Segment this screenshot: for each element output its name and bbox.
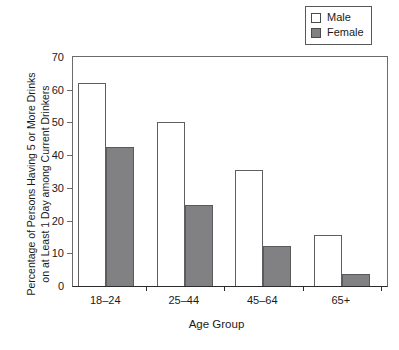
y-axis-tick: [67, 221, 73, 222]
x-axis-tick: [303, 286, 304, 291]
x-axis-tick: [224, 286, 225, 291]
y-axis-tick-label: 40: [52, 150, 64, 161]
x-axis-tick: [381, 286, 382, 291]
plot-area: 010203040506070: [72, 56, 388, 287]
y-axis-title: Percentage of Persons Having 5 or More D…: [22, 54, 54, 314]
x-axis-category-label: 45–64: [247, 294, 278, 306]
y-axis-tick-label: 20: [52, 215, 64, 226]
x-axis-category-label: 18–24: [90, 294, 121, 306]
y-axis-tick: [67, 286, 73, 287]
y-axis-title-line-2: on at Least 1 Day among Current Drinkers: [38, 85, 52, 282]
chart-legend: Male Female: [305, 6, 372, 45]
y-axis-title-line-1: Percentage of Persons Having 5 or More D…: [24, 73, 38, 296]
bar-female-2: [263, 246, 291, 286]
bar-female-1: [185, 205, 213, 286]
y-axis-tick-label: 0: [58, 281, 64, 292]
y-axis-tick-label: 10: [52, 248, 64, 259]
bar-male-3: [314, 235, 342, 286]
y-axis-tick-label: 50: [52, 117, 64, 128]
legend-item-male: Male: [311, 10, 364, 25]
legend-label-female: Female: [327, 26, 364, 39]
y-axis-tick: [67, 90, 73, 91]
y-axis-tick: [67, 155, 73, 156]
x-axis-category-label: 25–44: [168, 294, 199, 306]
bar-male-1: [157, 122, 185, 286]
x-axis-tick: [146, 286, 147, 291]
legend-item-female: Female: [311, 25, 364, 40]
legend-label-male: Male: [327, 11, 351, 24]
y-axis-tick: [67, 122, 73, 123]
y-axis-tick-label: 60: [52, 84, 64, 95]
y-axis-tick: [67, 188, 73, 189]
bar-male-2: [235, 170, 263, 286]
legend-swatch-female-icon: [311, 28, 321, 38]
bar-female-0: [106, 147, 134, 286]
x-axis-title-text: Age Group: [189, 318, 245, 330]
y-axis-tick: [67, 57, 73, 58]
y-axis-tick: [67, 253, 73, 254]
y-axis-tick-label: 70: [52, 52, 64, 63]
bar-female-3: [342, 274, 370, 286]
legend-swatch-male-icon: [311, 13, 321, 23]
x-axis-title: Age Group: [0, 318, 399, 330]
bar-male-0: [78, 83, 106, 286]
x-axis-category-label: 65+: [331, 294, 350, 306]
y-axis-tick-label: 30: [52, 182, 64, 193]
